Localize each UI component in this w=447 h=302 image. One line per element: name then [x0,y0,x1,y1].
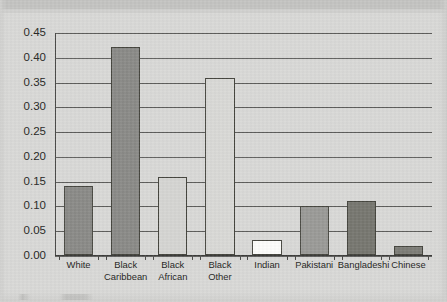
y-tick-label: 0.15 [0,176,46,187]
bar-chart: 0.450.400.350.300.250.200.150.100.050.00… [0,0,447,302]
y-tick-label: 0.35 [0,77,46,88]
x-label-line: Indian [244,259,291,271]
caption-sliver [18,294,126,300]
x-label-chinese: Chinese [385,259,432,271]
x-label-white: White [55,259,102,271]
x-label-line: Bangladeshi [338,259,385,271]
bar-chinese[interactable] [394,246,423,255]
x-label-line: Caribbean [102,271,149,283]
x-label-pakistani: Pakistani [291,259,338,271]
x-label-black-african: BlackAfrican [149,259,196,282]
y-tick-label: 0.10 [0,200,46,211]
x-label-indian: Indian [244,259,291,271]
bar-black-caribbean[interactable] [111,47,140,255]
x-label-bangladeshi: Bangladeshi [338,259,385,271]
x-axis-category-labels: WhiteBlackCaribbeanBlackAfricanBlackOthe… [55,259,432,293]
x-label-line: Pakistani [291,259,338,271]
bar-indian[interactable] [252,240,281,255]
y-tick-label: 0.00 [0,250,46,261]
y-tick-label: 0.25 [0,126,46,137]
x-label-black-caribbean: BlackCaribbean [102,259,149,282]
y-tick-label: 0.20 [0,151,46,162]
x-label-black-other: BlackOther [196,259,243,282]
x-label-line: Black [102,259,149,271]
x-label-line: Other [196,271,243,283]
bar-white[interactable] [64,186,93,255]
x-label-line: Black [196,259,243,271]
x-label-line: White [55,259,102,271]
x-label-line: Chinese [385,259,432,271]
y-axis-tick-labels: 0.450.400.350.300.250.200.150.100.050.00 [0,33,50,256]
x-label-line: Black [149,259,196,271]
x-label-line: African [149,271,196,283]
bar-bangladeshi[interactable] [347,201,376,255]
y-tick-label: 0.30 [0,101,46,112]
bars-group [55,33,432,256]
bar-black-other[interactable] [205,78,234,255]
chart-page: 0.450.400.350.300.250.200.150.100.050.00… [0,0,447,302]
gridline [55,256,432,257]
plot-area [55,33,432,256]
y-tick-label: 0.05 [0,225,46,236]
bar-black-african[interactable] [158,177,187,255]
y-tick-label: 0.40 [0,52,46,63]
bar-pakistani[interactable] [300,206,329,255]
y-tick-label: 0.45 [0,27,46,38]
